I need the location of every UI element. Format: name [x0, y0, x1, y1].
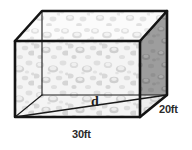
rectangular-prism-diagram — [0, 0, 192, 150]
width-dimension-label: 30ft — [72, 129, 91, 140]
geometry-figure: 30ft 20ft d — [0, 0, 192, 150]
depth-dimension-label: 20ft — [159, 104, 178, 115]
diagonal-label: d — [91, 95, 99, 109]
